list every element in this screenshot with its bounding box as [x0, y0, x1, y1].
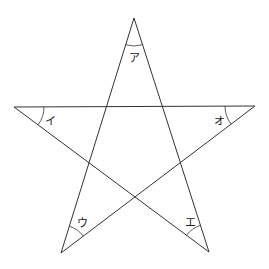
angle-label-left: イ: [45, 115, 56, 128]
angle-label-bottom-left: ウ: [77, 217, 88, 230]
edge-left-to-bottom-right: [14, 107, 209, 252]
edge-right-to-bottom-left: [61, 106, 255, 253]
edge-top-to-bottom-right: [134, 18, 209, 252]
angle-arc-right: [225, 106, 231, 124]
angle-arc-left: [38, 107, 44, 125]
edge-top-to-bottom-left: [61, 18, 134, 253]
edge-left-to-right: [14, 106, 255, 107]
angle-arc-top: [126, 45, 143, 46]
pentagram-diagram: ア イ ウ エ オ: [0, 0, 269, 269]
angle-label-right: オ: [214, 115, 225, 128]
angle-label-top: ア: [129, 52, 140, 65]
angle-label-bottom-right: エ: [185, 216, 196, 229]
